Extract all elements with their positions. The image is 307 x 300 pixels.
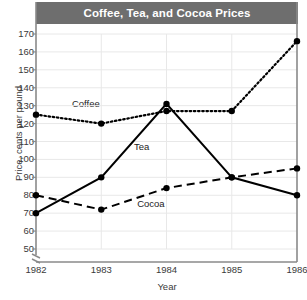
data-point-tea-1984 — [163, 101, 169, 107]
data-point-tea-1982 — [33, 210, 39, 216]
data-point-coffee-1982 — [33, 111, 39, 117]
axis-break-symbol — [32, 254, 40, 263]
axis-lines — [32, 2, 297, 263]
gridlines — [36, 34, 297, 249]
data-point-cocoa-1985 — [229, 174, 235, 180]
data-point-cocoa-1986 — [294, 165, 300, 171]
data-point-tea-1983 — [98, 174, 104, 180]
data-point-coffee-1983 — [98, 120, 104, 126]
data-point-coffee-1986 — [294, 38, 300, 44]
data-point-cocoa-1984 — [163, 185, 169, 191]
chart-container: Coffee, Tea, and Cocoa Prices Price, cen… — [0, 0, 307, 300]
data-point-tea-1986 — [294, 192, 300, 198]
data-point-cocoa-1983 — [98, 206, 104, 212]
plot-area — [0, 0, 307, 300]
data-point-coffee-1984 — [163, 108, 169, 114]
data-point-cocoa-1982 — [33, 192, 39, 198]
data-point-coffee-1985 — [229, 108, 235, 114]
